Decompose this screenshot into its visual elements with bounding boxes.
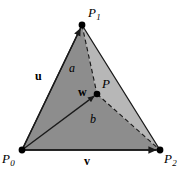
vertex-label-p2-subscript: 2 [172, 158, 177, 168]
triangle-diagram-canvas [0, 0, 183, 173]
vertex-label-p0: P0 [2, 152, 15, 168]
point-label-p: P [102, 77, 110, 90]
vertex-label-p0-subscript: 0 [10, 158, 15, 168]
vertex-label-p2-text: P [164, 151, 172, 166]
point-dot-p [94, 91, 101, 98]
vertex-label-p1: P1 [88, 6, 101, 22]
vertex-dot-p2 [157, 147, 164, 154]
vertex-dot-p1 [79, 22, 86, 29]
vertex-label-p0-text: P [2, 151, 10, 166]
vertex-label-p1-subscript: 1 [96, 12, 101, 22]
barycentric-triangle-figure: P1 P0 P2 P u v w a b [0, 0, 183, 173]
region-label-b: b [90, 113, 96, 125]
vector-label-u: u [35, 70, 42, 82]
vertex-label-p2: P2 [164, 152, 177, 168]
vector-label-v: v [84, 155, 90, 167]
vertex-label-p1-text: P [88, 5, 96, 20]
vertex-dot-p0 [19, 147, 26, 154]
region-label-a: a [69, 62, 75, 74]
vector-label-w: w [78, 86, 87, 98]
